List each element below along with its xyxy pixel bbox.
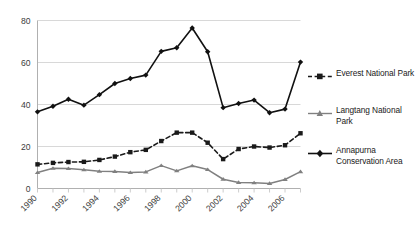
x-axis-tick-labels: 199019921994199619982000200220042006 — [18, 193, 286, 214]
legend-label-langtang: Langtang National Park — [336, 105, 416, 126]
svg-text:1996: 1996 — [111, 193, 132, 214]
gridlines — [38, 21, 301, 147]
y-axis-tick-labels: 020406080 — [21, 16, 31, 194]
svg-text:2000: 2000 — [173, 193, 194, 214]
line-chart: 020406080 199019921994199619982000200220… — [0, 0, 420, 235]
legend-swatch-everest — [308, 68, 332, 79]
chart-legend: Everest National Park Langtang National … — [308, 68, 420, 185]
svg-text:20: 20 — [21, 142, 31, 152]
data-series-layer — [35, 25, 304, 185]
legend-label-everest: Everest National Park — [336, 68, 416, 79]
svg-text:1990: 1990 — [18, 193, 39, 214]
legend-item-langtang[interactable]: Langtang National Park — [308, 105, 420, 126]
svg-text:2004: 2004 — [235, 193, 256, 214]
svg-text:80: 80 — [21, 16, 31, 26]
svg-text:1998: 1998 — [142, 193, 163, 214]
svg-text:2002: 2002 — [204, 193, 225, 214]
svg-text:60: 60 — [21, 58, 31, 68]
legend-swatch-annapurna — [308, 145, 332, 156]
series-langtang-national-park — [35, 163, 304, 185]
x-axis-ticks — [38, 189, 301, 193]
series-annapurna-conservation-area — [35, 25, 303, 115]
legend-label-annapurna: Annapurna Conservation Area — [336, 145, 416, 166]
legend-swatch-langtang — [308, 105, 332, 116]
svg-text:0: 0 — [26, 184, 31, 194]
svg-text:1992: 1992 — [49, 193, 70, 214]
svg-text:40: 40 — [21, 100, 31, 110]
legend-item-everest[interactable]: Everest National Park — [308, 68, 420, 86]
legend-item-annapurna[interactable]: Annapurna Conservation Area — [308, 145, 420, 166]
series-everest-national-park — [35, 130, 302, 166]
svg-text:2006: 2006 — [266, 193, 287, 214]
svg-text:1994: 1994 — [80, 193, 101, 214]
